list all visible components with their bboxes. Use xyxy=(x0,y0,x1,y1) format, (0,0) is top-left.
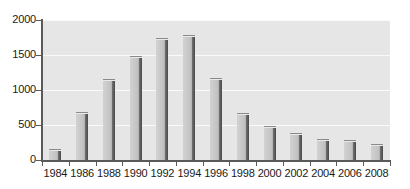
x-axis-tick xyxy=(203,161,204,166)
bar-2004 xyxy=(317,139,329,160)
bar-top-face xyxy=(49,149,61,151)
bar-top-face xyxy=(156,38,168,40)
y-axis-tick-label: 1000 xyxy=(2,84,36,95)
bar-top-face xyxy=(237,113,249,115)
gridline xyxy=(42,20,390,21)
bar-top-face xyxy=(290,133,302,135)
y-axis-tick xyxy=(36,20,42,21)
x-axis-label-1986: 1986 xyxy=(69,168,96,179)
gridline xyxy=(42,55,390,56)
x-axis-tick xyxy=(336,161,337,166)
bar-1990 xyxy=(130,56,142,160)
x-axis-label-2004: 2004 xyxy=(310,168,337,179)
x-axis-label-2006: 2006 xyxy=(336,168,363,179)
x-axis-label-2008: 2008 xyxy=(363,168,390,179)
bar-2006 xyxy=(344,140,356,160)
x-axis-tick xyxy=(69,161,70,166)
bar-top-face xyxy=(130,56,142,58)
x-axis-label-1988: 1988 xyxy=(96,168,123,179)
bar-2008 xyxy=(371,144,383,160)
x-axis-tick xyxy=(96,161,97,166)
bar-top-face xyxy=(210,78,222,80)
x-axis-tick xyxy=(363,161,364,166)
x-axis-tick xyxy=(256,161,257,166)
x-axis-tick xyxy=(390,161,391,166)
bar-top-face xyxy=(317,139,329,141)
bar-1998 xyxy=(237,113,249,160)
y-axis-tick-label: 1500 xyxy=(2,49,36,60)
bar-top-face xyxy=(344,140,356,142)
x-axis-tick xyxy=(149,161,150,166)
bar-1994 xyxy=(183,35,195,160)
y-axis-tick-label: 2000 xyxy=(2,14,36,25)
bar-top-face xyxy=(183,35,195,37)
y-axis-tick-label: 500 xyxy=(2,119,36,130)
bar-1988 xyxy=(103,79,115,160)
x-axis-line xyxy=(41,160,391,162)
x-axis-label-2000: 2000 xyxy=(256,168,283,179)
y-axis-tick-label: 0 xyxy=(2,154,36,165)
x-axis-tick xyxy=(229,161,230,166)
y-axis-tick xyxy=(36,55,42,56)
x-axis-label-1998: 1998 xyxy=(229,168,256,179)
bar-top-face xyxy=(371,144,383,146)
x-axis-label-1996: 1996 xyxy=(203,168,230,179)
x-axis-tick xyxy=(122,161,123,166)
y-axis-labels: 0500100015002000 xyxy=(0,0,36,189)
y-axis-tick xyxy=(36,125,42,126)
x-axis-label-1992: 1992 xyxy=(149,168,176,179)
bar-2000 xyxy=(264,126,276,160)
x-axis-tick xyxy=(42,161,43,166)
x-axis-label-2002: 2002 xyxy=(283,168,310,179)
bar-top-face xyxy=(264,126,276,128)
x-axis-label-1984: 1984 xyxy=(42,168,69,179)
plot-area xyxy=(42,20,390,160)
bar-chart: 0500100015002000 19841986198819901992199… xyxy=(0,0,410,189)
bar-2002 xyxy=(290,133,302,160)
x-axis-tick xyxy=(283,161,284,166)
bar-top-face xyxy=(76,112,88,114)
x-axis-tick xyxy=(310,161,311,166)
x-axis-tick xyxy=(176,161,177,166)
bar-1992 xyxy=(156,38,168,160)
bar-1984 xyxy=(49,149,61,160)
x-axis-label-1994: 1994 xyxy=(176,168,203,179)
bar-1996 xyxy=(210,78,222,160)
x-axis-label-1990: 1990 xyxy=(122,168,149,179)
bar-top-face xyxy=(103,79,115,81)
bar-1986 xyxy=(76,112,88,160)
y-axis-tick xyxy=(36,90,42,91)
